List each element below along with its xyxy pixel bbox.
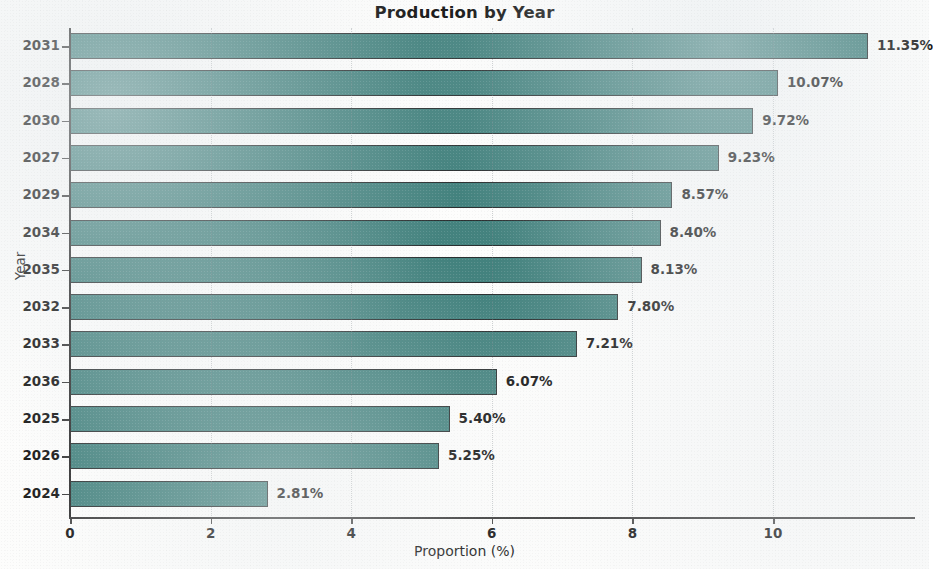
y-tick-label-2036: 2036 bbox=[8, 373, 60, 389]
y-tick-label-2032: 2032 bbox=[8, 298, 60, 314]
x-tick-label-0: 0 bbox=[50, 525, 90, 541]
y-tick-label-2033: 2033 bbox=[8, 335, 60, 351]
x-tick-mark-2 bbox=[211, 518, 213, 524]
y-tick-label-2031: 2031 bbox=[8, 37, 60, 53]
y-tick-mark-2030 bbox=[62, 121, 69, 123]
x-tick-label-6: 6 bbox=[472, 525, 512, 541]
x-tick-mark-8 bbox=[632, 518, 634, 524]
plot-area bbox=[70, 28, 915, 518]
gridline-x-8 bbox=[632, 28, 634, 518]
y-tick-mark-2028 bbox=[62, 83, 69, 85]
y-tick-mark-2034 bbox=[62, 233, 69, 235]
y-tick-mark-2032 bbox=[62, 307, 69, 309]
y-tick-mark-2026 bbox=[62, 456, 69, 458]
x-axis-spine bbox=[69, 517, 915, 519]
y-tick-label-2026: 2026 bbox=[8, 447, 60, 463]
chart-title: Production by Year bbox=[0, 3, 929, 22]
y-tick-mark-2029 bbox=[62, 195, 69, 197]
y-tick-label-2027: 2027 bbox=[8, 149, 60, 165]
y-tick-mark-2035 bbox=[62, 270, 69, 272]
x-tick-mark-4 bbox=[351, 518, 353, 524]
y-tick-mark-2031 bbox=[62, 46, 69, 48]
y-tick-mark-2024 bbox=[62, 494, 69, 496]
x-tick-label-10: 10 bbox=[753, 525, 793, 541]
y-tick-mark-2027 bbox=[62, 158, 69, 160]
y-tick-label-2025: 2025 bbox=[8, 410, 60, 426]
x-tick-label-2: 2 bbox=[191, 525, 231, 541]
gridline-x-10 bbox=[773, 28, 775, 518]
y-tick-label-2029: 2029 bbox=[8, 186, 60, 202]
x-tick-label-8: 8 bbox=[612, 525, 652, 541]
y-tick-label-2030: 2030 bbox=[8, 112, 60, 128]
x-tick-mark-6 bbox=[492, 518, 494, 524]
y-tick-label-2034: 2034 bbox=[8, 224, 60, 240]
x-tick-label-4: 4 bbox=[331, 525, 371, 541]
x-tick-mark-0 bbox=[70, 518, 72, 524]
x-axis-title: Proportion (%) bbox=[0, 543, 929, 559]
y-tick-label-2024: 2024 bbox=[8, 485, 60, 501]
y-tick-label-2035: 2035 bbox=[8, 261, 60, 277]
gridline-x-2 bbox=[211, 28, 213, 518]
y-tick-label-2028: 2028 bbox=[8, 74, 60, 90]
gridline-x-6 bbox=[492, 28, 494, 518]
gridline-x-4 bbox=[351, 28, 353, 518]
y-tick-mark-2025 bbox=[62, 419, 69, 421]
y-axis-spine bbox=[69, 28, 71, 518]
y-tick-mark-2036 bbox=[62, 382, 69, 384]
x-tick-mark-10 bbox=[773, 518, 775, 524]
y-tick-mark-2033 bbox=[62, 344, 69, 346]
